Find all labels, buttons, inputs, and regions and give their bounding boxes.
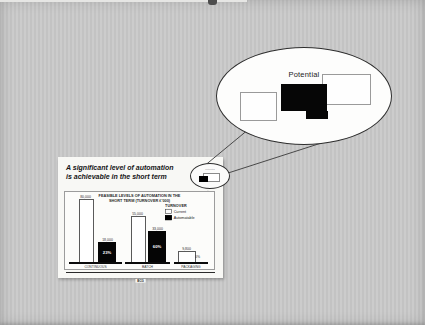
photo-background: Potential A significant level of automat… [0, 0, 425, 325]
magnifier-ellipse: Potential [216, 47, 392, 145]
callout-rect-black-step [306, 111, 328, 119]
mini-rect-black [199, 176, 208, 182]
callout-rect-black [281, 84, 327, 111]
mini-callout-ellipse: Potential [190, 163, 230, 189]
callout-rect-left [240, 92, 277, 121]
callout-rect-right [322, 74, 371, 105]
mini-potential-label: Potential [201, 167, 220, 170]
